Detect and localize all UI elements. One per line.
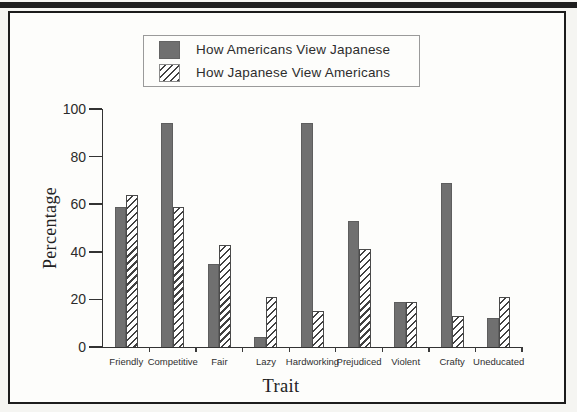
y-axis-tick xyxy=(89,346,102,348)
x-axis-tick xyxy=(521,347,522,352)
x-axis-tick xyxy=(428,347,429,352)
legend-item-americans-view-japanese: How Americans View Japanese xyxy=(159,41,419,59)
y-axis-tick xyxy=(89,299,102,301)
category-slot: Fair xyxy=(196,109,243,347)
legend-swatch-hatched xyxy=(159,64,180,82)
x-axis-category-label: Uneducated xyxy=(473,356,524,367)
x-axis-tick xyxy=(289,347,290,352)
y-axis-tick-label: 100 xyxy=(63,102,86,116)
legend-swatch-solid xyxy=(159,41,180,59)
top-rule xyxy=(0,2,577,8)
bar-hatched-violent xyxy=(406,302,418,347)
bar-solid-hardworking xyxy=(301,123,313,347)
x-axis-category-label: Violent xyxy=(391,356,420,367)
y-axis-tick-label: 20 xyxy=(70,292,86,306)
category-slot: Hardworking xyxy=(289,109,336,347)
category-slot: Friendly xyxy=(103,109,150,347)
category-slot: Uneducated xyxy=(475,109,522,347)
bar-hatched-lazy xyxy=(266,297,278,347)
page: How Americans View Japanese How Japanese… xyxy=(0,0,577,412)
x-axis-tick xyxy=(149,347,150,352)
bar-hatched-prejudiced xyxy=(359,249,371,347)
y-axis-tick-label: 40 xyxy=(70,245,86,259)
x-axis-tick xyxy=(475,347,476,352)
bar-hatched-fair xyxy=(219,245,231,347)
y-axis-title: Percentage xyxy=(40,187,61,269)
y-axis-tick-label: 80 xyxy=(70,150,86,164)
bar-solid-prejudiced xyxy=(348,221,360,347)
category-slot: Prejudiced xyxy=(336,109,383,347)
legend-item-japanese-view-americans: How Japanese View Americans xyxy=(159,64,419,82)
x-axis-category-label: Lazy xyxy=(256,356,276,367)
bar-hatched-competitive xyxy=(173,207,185,347)
legend-label: How Americans View Japanese xyxy=(196,42,390,57)
bar-solid-uneducated xyxy=(487,318,499,347)
bar-hatched-hardworking xyxy=(312,311,324,347)
bar-solid-fair xyxy=(208,264,220,347)
y-axis-tick xyxy=(89,203,102,205)
plot-area: 020406080100FriendlyCompetitiveFairLazyH… xyxy=(102,109,522,348)
x-axis-tick xyxy=(195,347,196,352)
x-axis-category-label: Competitive xyxy=(148,356,198,367)
bar-solid-competitive xyxy=(161,123,173,347)
category-slot: Crafty xyxy=(429,109,476,347)
bar-solid-friendly xyxy=(115,207,127,347)
x-axis-category-label: Crafty xyxy=(439,356,464,367)
legend-label: How Japanese View Americans xyxy=(196,65,390,80)
category-slot: Lazy xyxy=(243,109,290,347)
x-axis-tick xyxy=(335,347,336,352)
y-axis-tick-label: 0 xyxy=(78,340,86,354)
y-axis-tick xyxy=(89,251,102,253)
bar-solid-violent xyxy=(394,302,406,347)
category-slot: Competitive xyxy=(150,109,197,347)
x-axis-tick xyxy=(242,347,243,352)
x-axis-tick xyxy=(382,347,383,352)
y-axis-tick xyxy=(89,108,102,110)
category-slot: Violent xyxy=(382,109,429,347)
legend: How Americans View Japanese How Japanese… xyxy=(143,35,420,87)
x-axis-category-label: Friendly xyxy=(109,356,143,367)
x-axis-category-label: Hardworking xyxy=(286,356,339,367)
bar-hatched-crafty xyxy=(452,316,464,347)
chart-frame: How Americans View Japanese How Japanese… xyxy=(8,11,566,404)
bar-hatched-uneducated xyxy=(499,297,511,347)
bar-solid-crafty xyxy=(441,183,453,347)
y-axis-tick-label: 60 xyxy=(70,197,86,211)
x-axis-category-label: Prejudiced xyxy=(337,356,382,367)
x-axis-title: Trait xyxy=(263,376,300,397)
y-axis-tick xyxy=(89,156,102,158)
bar-solid-lazy xyxy=(254,337,266,347)
x-axis-category-label: Fair xyxy=(211,356,227,367)
bar-hatched-friendly xyxy=(126,195,138,347)
